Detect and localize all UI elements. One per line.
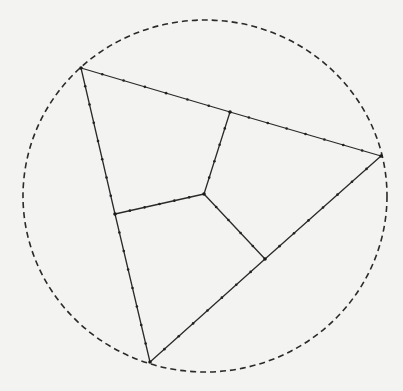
segment-dot xyxy=(278,245,281,248)
segment-dot xyxy=(136,305,139,308)
segment-dot xyxy=(158,203,161,206)
segment-dot xyxy=(208,176,211,179)
segment-dot xyxy=(177,335,180,338)
segment-dot xyxy=(361,149,364,152)
geometry-diagram xyxy=(0,0,403,391)
segment-dot xyxy=(239,232,242,235)
segment-dot xyxy=(129,209,132,212)
segment-dot xyxy=(192,322,195,325)
segment-dot xyxy=(218,144,221,147)
segment-dot xyxy=(127,268,130,271)
segment-dot xyxy=(213,160,216,163)
vertex-B xyxy=(379,154,383,158)
segment-dot xyxy=(109,194,112,197)
vertex-A xyxy=(79,66,83,70)
segment-dot xyxy=(122,79,125,82)
segment-dot xyxy=(307,219,310,222)
segment-dot xyxy=(144,342,147,345)
segment-dot xyxy=(248,116,251,119)
segment-dot xyxy=(88,103,91,106)
segment-dot xyxy=(293,232,296,235)
segment-dot xyxy=(101,158,104,161)
segment-dot xyxy=(235,283,238,286)
segment-dot xyxy=(266,122,269,125)
segment-dot xyxy=(252,245,255,248)
segment-dot xyxy=(131,287,134,290)
segment-dot xyxy=(165,92,168,95)
segment-dot xyxy=(122,250,125,253)
segment-dot xyxy=(144,86,147,89)
segment-dot xyxy=(143,206,146,209)
segment-dot xyxy=(84,85,87,88)
segment-dot xyxy=(323,138,326,141)
segment-dot xyxy=(351,180,354,183)
vertex-O xyxy=(202,192,206,196)
vertex-R xyxy=(263,257,267,261)
segment-dot xyxy=(206,309,209,312)
segment-dot xyxy=(342,144,345,147)
segment-dot xyxy=(227,219,230,222)
segment-OP xyxy=(204,112,230,194)
segment-dot xyxy=(365,168,368,171)
segment-dot xyxy=(186,98,189,101)
segment-dot xyxy=(163,348,166,351)
vertex-C xyxy=(148,360,152,364)
vertex-P xyxy=(228,110,232,114)
segment-dot xyxy=(92,121,95,124)
vertex-Q xyxy=(113,212,117,216)
segment-dot xyxy=(304,133,307,136)
vertices xyxy=(79,66,383,364)
segment-dot xyxy=(221,296,224,299)
segment-dot xyxy=(188,196,191,199)
segment-dot xyxy=(118,231,121,234)
segment-dot xyxy=(224,127,227,130)
segment-dot xyxy=(173,199,176,202)
segment-dot xyxy=(336,193,339,196)
segment-dot xyxy=(249,271,252,274)
segment-dot xyxy=(285,127,288,130)
segment-OR xyxy=(204,194,265,259)
segment-dot xyxy=(207,104,210,107)
segment-dot xyxy=(322,206,325,209)
segment-dot xyxy=(140,324,143,327)
segment-dot xyxy=(105,176,108,179)
segment-dot xyxy=(101,73,104,76)
segment-dot xyxy=(215,206,218,209)
segment-dot xyxy=(97,140,100,143)
